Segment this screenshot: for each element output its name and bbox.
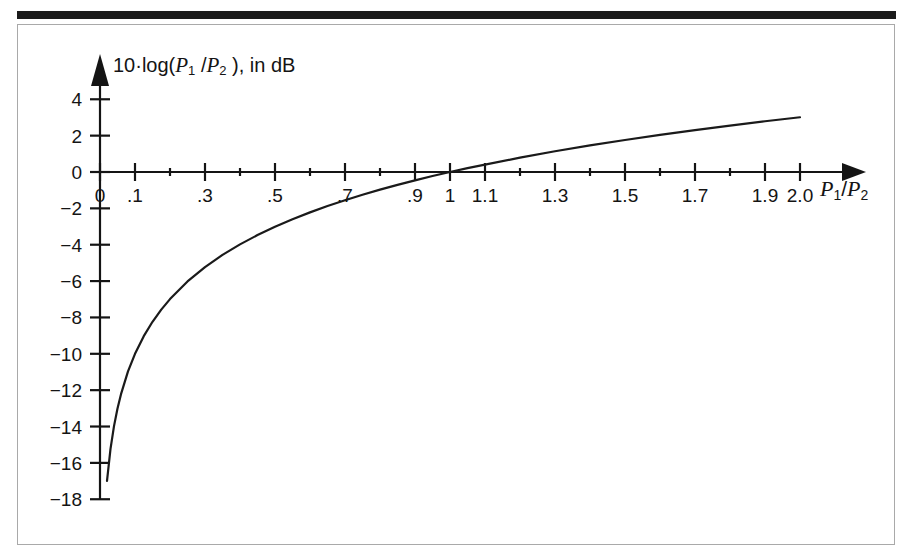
y-axis-title: 10·log(P1 /P2 ), in dB: [113, 55, 295, 77]
x-tick-label: 1.3: [529, 186, 581, 205]
y-tick-label: 0: [4, 163, 82, 182]
y-tick-label: −2: [4, 199, 82, 218]
y-axis-title-p1: P: [175, 53, 188, 77]
y-tick-label: −14: [4, 418, 82, 437]
x-axis-title-p2: P: [847, 176, 860, 201]
y-axis-arrowhead: [91, 54, 109, 86]
x-tick-label: .5: [249, 186, 301, 205]
x-axis-title-p2-sub: 2: [861, 187, 869, 203]
y-tick-label: −10: [4, 345, 82, 364]
y-tick-label: −8: [4, 308, 82, 327]
x-axis-title: P1/P2: [820, 178, 868, 202]
y-axis-title-p2: P: [206, 53, 219, 77]
y-axis-group: [90, 54, 110, 500]
y-tick-label: 4: [4, 90, 82, 109]
y-axis-title-func: log(: [142, 54, 175, 76]
x-tick-label: 1.7: [669, 186, 721, 205]
chart-plot-svg: [0, 0, 913, 557]
y-axis-title-dot: ·: [135, 54, 142, 76]
x-tick-label: .7: [319, 186, 371, 205]
y-tick-label: 2: [4, 127, 82, 146]
x-tick-label: 2.0: [774, 186, 826, 205]
x-tick-label: .3: [179, 186, 231, 205]
x-axis-title-p1: P: [820, 176, 833, 201]
y-axis-title-slash: /: [195, 54, 206, 76]
y-axis-title-prefix: 10: [113, 54, 135, 76]
x-tick-label: .1: [109, 186, 161, 205]
y-axis-title-suffix: ), in dB: [227, 54, 296, 76]
x-tick-label: 1.5: [599, 186, 651, 205]
y-tick-label: −6: [4, 272, 82, 291]
x-tick-label: 1.1: [459, 186, 511, 205]
y-tick-label: −4: [4, 236, 82, 255]
y-tick-label: −16: [4, 454, 82, 473]
figure-canvas: 0.1.3.5.7.911.11.31.51.71.92.0 420−2−4−6…: [0, 0, 913, 557]
y-axis-title-p2-sub: 2: [219, 63, 226, 78]
y-tick-label: −12: [4, 381, 82, 400]
y-tick-label: −18: [4, 490, 82, 509]
